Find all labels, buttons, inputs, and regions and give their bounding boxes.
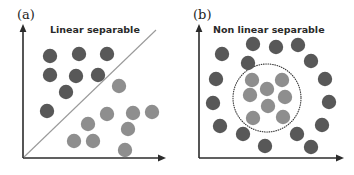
data-point-light (121, 122, 135, 136)
data-point-light (260, 82, 274, 96)
data-point-light (261, 99, 275, 113)
data-point-light (275, 73, 289, 87)
data-point-dark (269, 40, 283, 54)
data-point-dark (304, 140, 318, 154)
data-point-dark (318, 72, 332, 86)
data-point-light (243, 88, 257, 102)
panel-linear-separable: (a) Linear separable (0, 0, 177, 175)
y-axis-arrowhead-b (196, 24, 203, 32)
data-point-light (126, 106, 140, 120)
data-point-dark (258, 139, 272, 153)
data-point-light (100, 107, 114, 121)
scatter-group-dark-b (206, 37, 336, 154)
data-point-light (86, 134, 100, 148)
data-point-light (118, 143, 132, 157)
data-point-dark (100, 47, 114, 61)
data-point-dark (91, 68, 105, 82)
data-point-dark (69, 69, 83, 83)
data-point-dark (213, 119, 227, 133)
scatter-group-light-a (67, 79, 159, 157)
data-point-dark (206, 96, 220, 110)
data-point-light (81, 117, 95, 131)
data-point-light (246, 111, 260, 125)
data-point-dark (209, 72, 223, 86)
data-point-dark (236, 127, 250, 141)
plot-area-b (177, 0, 354, 175)
data-point-dark (72, 47, 86, 61)
figure-container: (a) Linear separable (0, 0, 354, 175)
data-point-dark (246, 37, 260, 51)
data-point-dark (315, 118, 329, 132)
data-point-light (112, 79, 126, 93)
data-point-dark (43, 49, 57, 63)
data-point-light (67, 134, 81, 148)
data-point-light (276, 110, 290, 124)
data-point-dark (59, 85, 73, 99)
scatter-group-dark-a (40, 47, 114, 118)
data-point-dark (290, 127, 304, 141)
data-point-dark (241, 56, 255, 70)
y-axis-arrowhead-a (20, 24, 27, 32)
data-point-dark (43, 68, 57, 82)
data-point-dark (40, 104, 54, 118)
plot-area-a (0, 0, 177, 175)
data-point-light (245, 73, 259, 87)
data-point-light (145, 105, 159, 119)
x-axis-arrowhead-b (336, 155, 344, 162)
data-point-dark (291, 38, 305, 52)
data-point-light (278, 90, 292, 104)
data-point-dark (322, 95, 336, 109)
panel-non-linear-separable: (b) Non linear separable (177, 0, 354, 175)
data-point-dark (304, 54, 318, 68)
scatter-group-light-b (243, 73, 292, 125)
data-point-dark (215, 47, 229, 61)
x-axis-arrowhead-a (158, 155, 166, 162)
